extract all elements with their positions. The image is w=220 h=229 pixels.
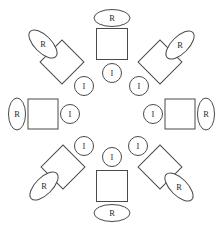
node-square-right[interactable] <box>165 99 195 129</box>
resource-label-bottom-left: R <box>41 181 47 191</box>
resource-label-top-right: R <box>177 40 183 50</box>
interface-label-bottom-left: I <box>83 141 86 151</box>
diagram-canvas: RIRIRIRIRIRIRIRI <box>0 0 220 229</box>
diagram-unit-top-left[interactable]: RI <box>24 25 93 95</box>
resource-label-top: R <box>109 13 115 23</box>
diagram-unit-left[interactable]: RI <box>9 98 80 130</box>
diagram-unit-right[interactable]: RI <box>144 98 215 130</box>
resource-label-bottom: R <box>109 208 115 218</box>
diagram-unit-bottom-left[interactable]: RI <box>25 137 93 205</box>
interface-label-bottom-right: I <box>137 141 140 151</box>
resource-label-bottom-right: R <box>176 182 182 192</box>
interface-label-top-right: I <box>138 81 141 91</box>
node-square-top[interactable] <box>97 29 128 60</box>
diagram-unit-bottom-right[interactable]: RI <box>129 137 198 206</box>
diagram-unit-top[interactable]: RI <box>94 10 130 83</box>
interface-label-bottom: I <box>111 152 114 162</box>
diagram-unit-top-right[interactable]: RI <box>130 26 199 95</box>
resource-label-right: R <box>203 109 209 119</box>
resource-label-left: R <box>14 109 20 119</box>
interface-label-left: I <box>69 109 72 119</box>
node-square-left[interactable] <box>28 99 58 129</box>
interface-label-right: I <box>152 109 155 119</box>
radial-node-diagram: RIRIRIRIRIRIRIRI <box>0 0 220 229</box>
interface-label-top: I <box>111 68 114 78</box>
interface-label-top-left: I <box>83 81 86 91</box>
resource-label-top-left: R <box>40 39 46 49</box>
diagram-unit-bottom[interactable]: RI <box>94 148 130 222</box>
node-square-bottom[interactable] <box>97 171 128 202</box>
